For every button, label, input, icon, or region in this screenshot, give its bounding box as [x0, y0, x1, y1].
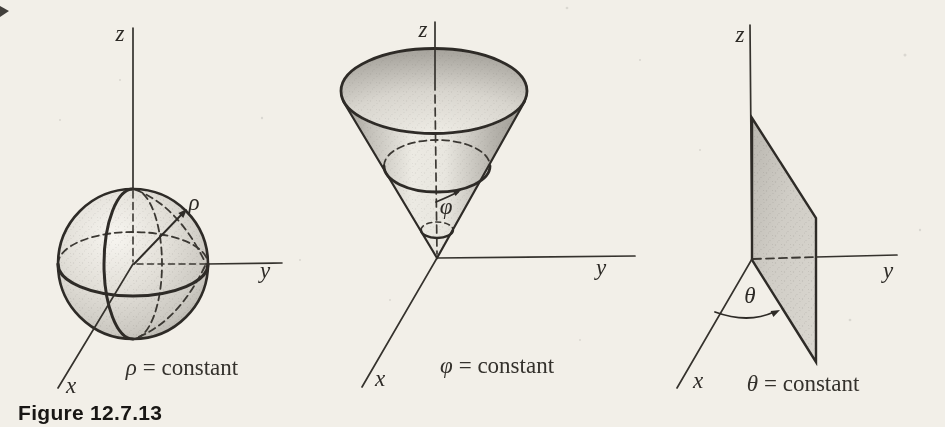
plane-caption: θ= constant	[747, 371, 860, 396]
cone-y-axis-label: y	[594, 255, 607, 280]
theta-label: θ	[744, 283, 755, 308]
cone-caption-rest: = constant	[459, 353, 555, 378]
x-axis	[677, 259, 752, 388]
scan-mark	[0, 6, 9, 17]
cone-panel: z y x φ φ= constant	[341, 17, 635, 391]
phi-label: φ	[440, 194, 453, 219]
half-plane-grain	[752, 118, 816, 362]
plane-z-axis-label: z	[735, 22, 745, 47]
plane-x-axis-label: x	[692, 368, 704, 393]
cone-caption: φ= constant	[440, 353, 555, 378]
theta-arrowhead	[771, 310, 780, 317]
cone-caption-param: φ	[440, 353, 453, 378]
sphere-caption-rest: = constant	[143, 355, 239, 380]
sphere-y-axis-label: y	[258, 258, 271, 283]
plane-y-axis-label: y	[881, 258, 894, 283]
figure-number-label: Figure 12.7.13	[18, 401, 162, 424]
figure-canvas: z y x ρ ρ= constant z y x φ	[0, 0, 945, 427]
textbook-figure: z y x ρ ρ= constant z y x φ	[0, 0, 945, 427]
theta-angle-arc	[715, 312, 774, 318]
sphere-caption-param: ρ	[125, 355, 137, 380]
sphere-x-axis-label: x	[65, 373, 77, 398]
x-axis	[362, 258, 437, 387]
cone-z-axis-label: z	[418, 17, 428, 42]
cone-x-axis-label: x	[374, 366, 386, 391]
plane-caption-rest: = constant	[764, 371, 860, 396]
y-axis	[206, 263, 282, 264]
sphere-z-axis-label: z	[115, 21, 125, 46]
y-axis	[816, 255, 897, 257]
half-plane-panel: z y x θ θ= constant	[677, 22, 897, 396]
rho-label: ρ	[187, 190, 199, 215]
plane-caption-param: θ	[747, 371, 758, 396]
sphere-caption: ρ= constant	[125, 355, 239, 380]
sphere-panel: z y x ρ ρ= constant	[58, 21, 282, 398]
